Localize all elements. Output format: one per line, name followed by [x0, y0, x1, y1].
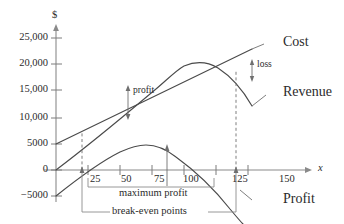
- x-axis-arrowhead: [305, 167, 312, 173]
- revenue-label-leader: [252, 95, 266, 106]
- y-axis-label-dollar: $: [52, 10, 57, 21]
- annotation-break-even-points: break-even points: [112, 206, 187, 217]
- curve-cost: [56, 49, 252, 144]
- series-label-cost: Cost: [283, 35, 309, 49]
- curve-revenue: [56, 63, 252, 170]
- y-tick-label-10000: 10,000: [0, 112, 48, 123]
- maximum-profit-arrow: [165, 144, 170, 186]
- profit-label-leader: [240, 190, 252, 200]
- annotation-loss-gap: loss: [257, 60, 272, 70]
- x-tick-label-100: 100: [183, 174, 199, 185]
- y-tick-label-25000: 25,000: [0, 32, 48, 43]
- x-tick-label-50: 50: [121, 174, 132, 185]
- y-tick-label-minus5000: −5000: [0, 190, 48, 201]
- annotation-profit-gap: profit: [133, 86, 154, 96]
- x-tick-label-75: 75: [154, 174, 165, 185]
- y-tick-label-20000: 20,000: [0, 58, 48, 69]
- y-tick-label-5000: 5000: [0, 138, 48, 149]
- series-label-profit: Profit: [283, 192, 315, 206]
- series-label-revenue: Revenue: [283, 85, 332, 99]
- x-tick-label-125: 125: [232, 174, 248, 185]
- annotation-maximum-profit: maximum profit: [119, 188, 188, 199]
- cost-label-leader: [252, 44, 264, 49]
- x-axis: [44, 167, 312, 173]
- loss-gap-arrow: [250, 59, 254, 82]
- y-tick-label-0: 0: [0, 164, 48, 175]
- y-axis: [53, 24, 59, 202]
- y-axis-arrowhead: [53, 24, 59, 31]
- y-tick-label-15000: 15,000: [0, 84, 48, 95]
- chart-figure: 25,000 20,000 15,000 10,000 5000 0 −5000…: [0, 0, 344, 224]
- profit-gap-arrow: [126, 85, 131, 120]
- x-tick-label-150: 150: [279, 174, 295, 185]
- x-tick-label-25: 25: [90, 174, 101, 185]
- x-axis-label-x: x: [318, 163, 323, 174]
